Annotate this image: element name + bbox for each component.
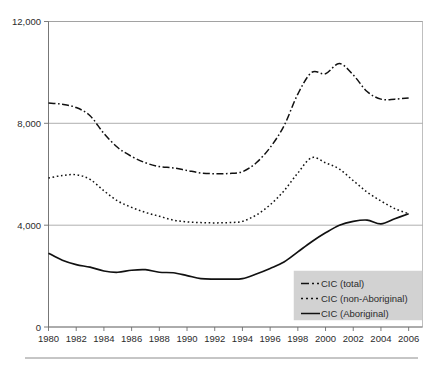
y-tick-label-12000: 12,000 — [12, 16, 41, 27]
legend-label-aboriginal: CIC (Aboriginal) — [321, 308, 389, 319]
y-tick-label-4000: 4,000 — [17, 220, 41, 231]
x-tick-label-1986: 1986 — [121, 333, 142, 344]
chart-legend[interactable]: CIC (total) CIC (non-Aboriginal) CIC (Ab… — [294, 271, 422, 320]
y-axis-tick-labels: 12,000 8,000 4,000 0 — [12, 16, 41, 333]
series-lines — [49, 64, 409, 280]
series-line-cic-non-aboriginal — [49, 157, 409, 223]
x-tick-label-1990: 1990 — [176, 333, 197, 344]
x-tick-label-2006: 2006 — [398, 333, 419, 344]
x-axis-tick-labels: 1980198219841986198819901992199419961998… — [38, 327, 419, 344]
chart-figure: 12,000 8,000 4,000 0 1980198219841986198… — [0, 0, 440, 369]
x-tick-label-1992: 1992 — [204, 333, 225, 344]
legend-label-total: CIC (total) — [321, 278, 364, 289]
x-tick-label-2004: 2004 — [370, 333, 391, 344]
line-chart: 12,000 8,000 4,000 0 1980198219841986198… — [0, 0, 440, 369]
x-tick-label-1994: 1994 — [232, 333, 253, 344]
legend-label-non-aboriginal: CIC (non-Aboriginal) — [321, 293, 408, 304]
x-tick-label-2000: 2000 — [315, 333, 336, 344]
y-tick-label-0: 0 — [36, 322, 41, 333]
x-tick-label-1982: 1982 — [66, 333, 87, 344]
y-tick-marks — [44, 22, 49, 328]
x-tick-label-1984: 1984 — [93, 333, 114, 344]
series-line-cic-aboriginal — [49, 214, 409, 279]
x-tick-label-2002: 2002 — [343, 333, 364, 344]
x-tick-label-1988: 1988 — [149, 333, 170, 344]
series-line-cic-total — [49, 64, 409, 174]
x-tick-label-1980: 1980 — [38, 333, 59, 344]
y-tick-label-8000: 8,000 — [17, 118, 41, 129]
x-tick-label-1998: 1998 — [287, 333, 308, 344]
x-tick-label-1996: 1996 — [260, 333, 281, 344]
